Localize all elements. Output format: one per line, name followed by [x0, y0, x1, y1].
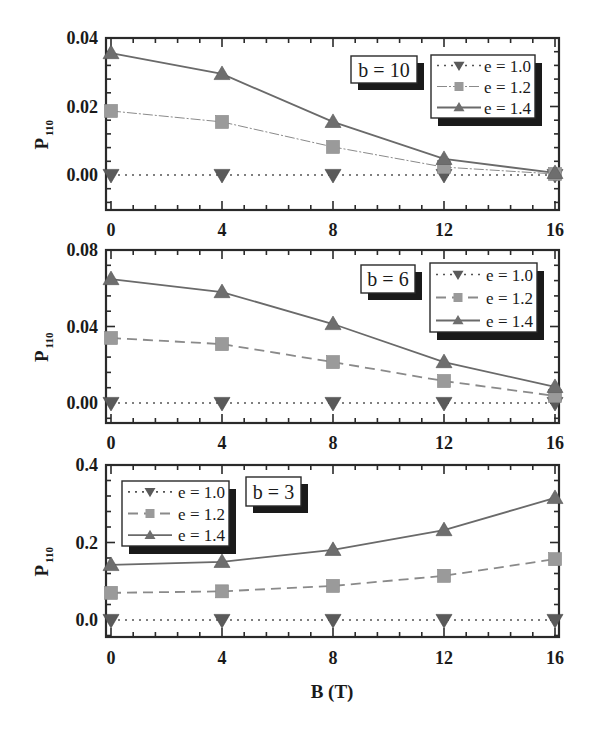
- panel-label: b = 6: [367, 268, 408, 290]
- data-point-14: [325, 114, 341, 128]
- x-tick-label: 4: [218, 433, 227, 453]
- y-axis-title: P110: [31, 332, 55, 362]
- x-tick-label: 8: [329, 648, 338, 668]
- panel-2: 04812160.000.040.08P110b = 6e = 1.0e = 1…: [31, 240, 564, 453]
- legend-entry-label: e = 1.4: [484, 99, 531, 118]
- x-tick-label: 16: [546, 220, 564, 240]
- y-tick-label: 0.08: [67, 240, 99, 260]
- y-axis-title-subscript: 110: [43, 547, 55, 563]
- x-tick-label: 8: [329, 433, 338, 453]
- legend-entry-label: e = 1.2: [486, 289, 533, 308]
- x-tick-label: 12: [435, 433, 453, 453]
- panel-3: 04812160.00.20.4P110b = 3e = 1.0e = 1.2e…: [31, 455, 564, 668]
- legend-marker: [454, 293, 463, 302]
- x-tick-label: 0: [107, 220, 116, 240]
- data-point-12: [216, 585, 229, 598]
- x-tick-label: 8: [329, 220, 338, 240]
- x-tick-label: 0: [107, 648, 116, 668]
- data-point-12: [105, 104, 118, 117]
- panel-1: 04812160.000.020.04P110b = 10e = 1.0e = …: [31, 28, 564, 240]
- x-tick-label: 16: [546, 433, 564, 453]
- data-point-10: [214, 397, 230, 411]
- y-tick-label: 0.04: [67, 317, 99, 337]
- data-point-10: [325, 169, 341, 183]
- data-point-10: [325, 614, 341, 628]
- data-point-12: [216, 338, 229, 351]
- data-point-10: [214, 614, 230, 628]
- y-axis-title-subscript: 110: [43, 332, 55, 348]
- data-point-10: [325, 397, 341, 411]
- x-tick-label: 12: [435, 648, 453, 668]
- y-tick-label: 0.0: [76, 610, 99, 630]
- legend-marker: [146, 509, 155, 518]
- legend-entry-label: e = 1.2: [484, 78, 531, 97]
- legend-entry-label: e = 1.0: [178, 483, 225, 502]
- legend-marker: [455, 82, 464, 91]
- y-axis-title: P110: [31, 547, 55, 577]
- legend-entry-label: e = 1.4: [486, 312, 533, 331]
- legend-entry-label: e = 1.2: [178, 505, 225, 524]
- y-tick-label: 0.04: [67, 28, 99, 48]
- panel-label: b = 3: [253, 481, 294, 503]
- y-tick-label: 0.00: [67, 393, 99, 413]
- y-tick-label: 0.02: [67, 97, 99, 117]
- data-point-14: [547, 490, 563, 504]
- data-point-12: [327, 579, 340, 592]
- data-point-12: [105, 586, 118, 599]
- y-axis-title-subscript: 110: [43, 120, 55, 136]
- data-point-10: [436, 614, 452, 628]
- data-point-12: [216, 115, 229, 128]
- x-tick-label: 0: [107, 433, 116, 453]
- legend-entry-label: e = 1.0: [484, 57, 531, 76]
- y-axis-title-main: P: [31, 138, 52, 150]
- legend-entry-label: e = 1.4: [178, 526, 225, 545]
- y-tick-label: 0.2: [76, 533, 99, 553]
- y-tick-label: 0.4: [76, 455, 99, 475]
- data-point-12: [438, 375, 451, 388]
- x-axis-title: B (T): [311, 681, 354, 703]
- panel-label: b = 10: [358, 59, 409, 81]
- data-point-12: [105, 331, 118, 344]
- data-point-12: [549, 553, 562, 566]
- y-axis-title-main: P: [31, 350, 52, 362]
- data-point-12: [438, 569, 451, 582]
- data-point-10: [436, 397, 452, 411]
- data-point-12: [327, 356, 340, 369]
- y-tick-label: 0.00: [67, 165, 99, 185]
- y-axis-title-main: P: [31, 565, 52, 577]
- data-point-12: [327, 140, 340, 153]
- y-axis-title: P110: [31, 120, 55, 150]
- x-tick-label: 4: [218, 648, 227, 668]
- data-point-10: [214, 169, 230, 183]
- x-tick-label: 4: [218, 220, 227, 240]
- legend-entry-label: e = 1.0: [486, 266, 533, 285]
- x-tick-label: 12: [435, 220, 453, 240]
- data-point-10: [547, 614, 563, 628]
- x-tick-label: 16: [546, 648, 564, 668]
- chart: 04812160.000.020.04P110b = 10e = 1.0e = …: [0, 0, 593, 731]
